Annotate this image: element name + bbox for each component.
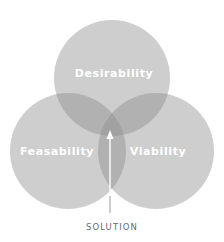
label-viability: Viability bbox=[130, 145, 187, 158]
solution-label: SOLUTION bbox=[86, 222, 138, 232]
label-feasability: Feasability bbox=[20, 145, 94, 158]
venn-circles bbox=[10, 20, 214, 209]
venn-diagram: Desirability Feasability Viability SOLUT… bbox=[0, 0, 224, 242]
label-desirability: Desirability bbox=[75, 67, 154, 80]
